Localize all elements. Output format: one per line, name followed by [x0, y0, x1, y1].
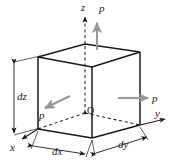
- figure-container: z p y x O p p dz dx dy: [0, 0, 178, 165]
- pressure-right-label: p: [152, 93, 158, 104]
- dimension-dz-label: dz: [17, 91, 27, 102]
- cube-edge-bottom-front-right: [92, 125, 140, 138]
- axis-y-line: [140, 119, 165, 125]
- axis-x-label: x: [10, 142, 15, 153]
- cube-edge-bottom-front-left: [38, 129, 92, 138]
- dim-dy-ext-left: [92, 140, 95, 156]
- pressure-left-label: p: [39, 110, 45, 121]
- dim-dx-ext-right: [86, 140, 92, 157]
- hidden-edge-bottom-x: [38, 113, 85, 129]
- diagram-canvas: [0, 0, 178, 165]
- cube-visible-edges: [38, 44, 140, 138]
- cube-top-face: [38, 44, 140, 67]
- axis-z-label: z: [81, 3, 85, 13]
- dimension-dx-label: dx: [52, 146, 62, 157]
- origin-point: [84, 112, 87, 115]
- dimension-dy-label: dy: [118, 139, 128, 150]
- origin-label: O: [87, 106, 94, 116]
- pressure-top-label: p: [99, 3, 105, 14]
- axis-y-label: y: [155, 108, 160, 119]
- pressure-arrow-left: [45, 96, 70, 108]
- dim-dz-ext-top: [14, 56, 40, 62]
- dim-dz-ext-bottom: [14, 128, 40, 135]
